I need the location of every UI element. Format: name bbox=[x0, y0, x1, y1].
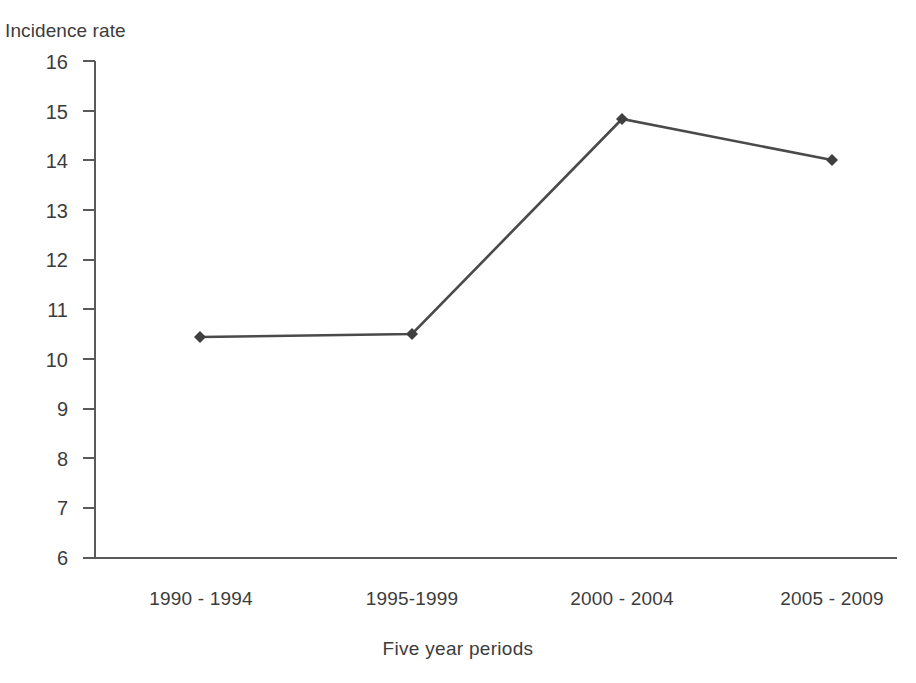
x-tick-label: 2000 - 2004 bbox=[570, 588, 674, 610]
y-axis-ticks bbox=[83, 61, 95, 558]
x-axis-title: Five year periods bbox=[0, 638, 916, 660]
incidence-rate-line-chart: Incidence rate 16 15 14 13 12 11 10 9 8 … bbox=[0, 0, 916, 683]
x-tick-label: 1995-1999 bbox=[366, 588, 459, 610]
data-series-line bbox=[200, 119, 832, 337]
x-tick-label: 1990 - 1994 bbox=[149, 588, 253, 610]
x-tick-label: 2005 - 2009 bbox=[780, 588, 884, 610]
plot-area bbox=[0, 0, 916, 683]
data-point-marker bbox=[194, 331, 206, 343]
data-point-marker bbox=[826, 154, 838, 166]
